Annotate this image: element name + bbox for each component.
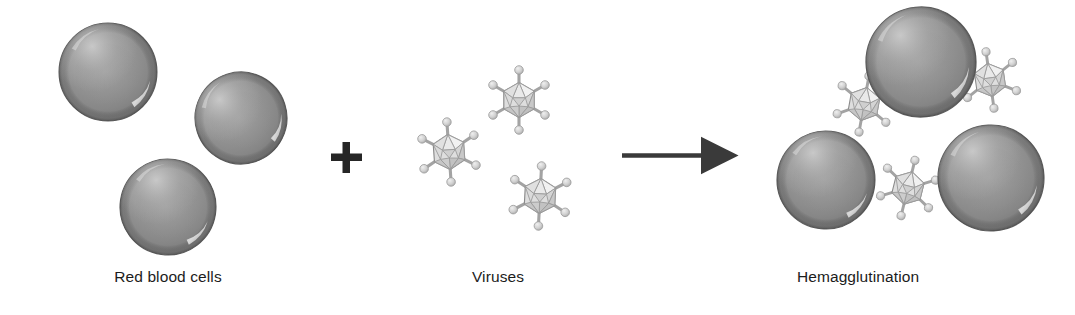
red-blood-cell-agglutinated: [935, 122, 1046, 233]
figure-stage: Red blood cells Viruses Hemagglutination: [0, 0, 1075, 315]
hemagglutination-figure: Red blood cells Viruses Hemagglutination: [0, 0, 1075, 315]
red-blood-cell: [59, 23, 157, 121]
virus-particle: [508, 160, 572, 232]
caption-hemagglutination: Hemagglutination: [797, 268, 919, 286]
caption-viruses: Viruses: [472, 268, 524, 286]
red-blood-cell-agglutinated: [772, 126, 880, 234]
virus-particle: [416, 116, 481, 189]
red-blood-cell: [183, 60, 299, 176]
viruses-group: [416, 66, 572, 232]
virus-particle-bridging: [872, 149, 944, 226]
plus-operator-icon: [331, 142, 362, 173]
hemagglutination-group: [772, 2, 1047, 234]
caption-red-blood-cells: Red blood cells: [114, 268, 221, 286]
virus-particle: [489, 66, 550, 135]
red-blood-cells-group: [59, 23, 299, 261]
red-blood-cell: [114, 153, 222, 261]
